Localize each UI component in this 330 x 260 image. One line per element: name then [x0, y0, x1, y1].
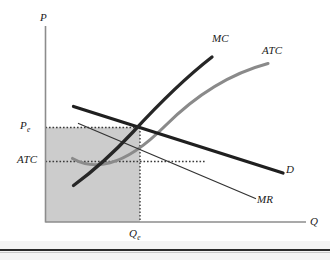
- economics-diagram: P Q MC ATC D MR Pe ATC Qe: [0, 0, 330, 260]
- pe-subscript: e: [27, 125, 31, 134]
- qe-base: Q: [129, 227, 137, 239]
- atc-tick-label: ATC: [17, 154, 37, 165]
- page-footer-rule-secondary: [0, 252, 330, 253]
- x-axis-label: Q: [310, 216, 318, 227]
- quantity-equilibrium-tick-label: Qe: [129, 228, 141, 242]
- marginal-revenue-curve-label: MR: [257, 194, 273, 205]
- page-footer-rule: [0, 249, 330, 251]
- price-equilibrium-tick-label: Pe: [20, 120, 30, 134]
- demand-curve-label: D: [286, 164, 294, 175]
- chart-canvas: [0, 0, 330, 260]
- pe-base: P: [20, 119, 27, 131]
- atc-curve-label: ATC: [262, 45, 282, 56]
- y-axis-label: P: [40, 12, 47, 23]
- mc-curve-label: MC: [212, 33, 229, 44]
